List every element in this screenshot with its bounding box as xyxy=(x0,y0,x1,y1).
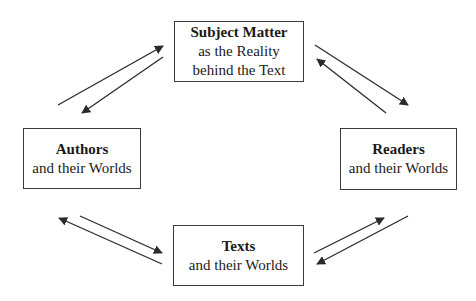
arrow-readers-to-texts xyxy=(317,216,408,264)
node-texts: Texts and their Worlds xyxy=(173,225,304,286)
node-readers: Readers and their Worlds xyxy=(340,128,457,190)
arrow-authors-to-texts xyxy=(80,216,162,253)
node-title: Authors xyxy=(56,140,109,159)
node-subject-matter: Subject Matter as the Reality behind the… xyxy=(174,21,304,82)
arrow-subject-to-readers xyxy=(315,45,408,105)
node-authors: Authors and their Worlds xyxy=(23,128,141,189)
arrow-texts-to-authors xyxy=(59,218,162,264)
node-subtitle: and their Worlds xyxy=(189,256,288,275)
arrow-authors-to-subject xyxy=(58,46,163,105)
node-title: Readers xyxy=(372,140,425,159)
node-subtitle: and their Worlds xyxy=(32,159,131,178)
arrow-readers-to-subject xyxy=(317,59,386,113)
node-subtitle: behind the Text xyxy=(193,61,286,80)
node-title: Texts xyxy=(222,237,256,256)
node-subtitle: and their Worlds xyxy=(349,159,448,178)
node-subtitle: as the Reality xyxy=(198,42,280,61)
node-title: Subject Matter xyxy=(190,23,287,42)
